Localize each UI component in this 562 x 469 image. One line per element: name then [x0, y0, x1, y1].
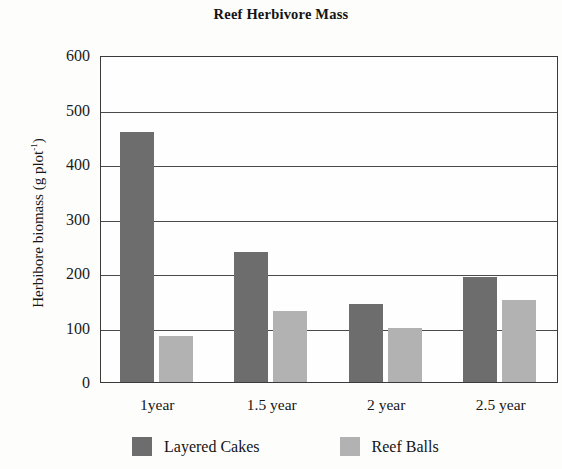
y-axis-tick-label: 600: [30, 48, 90, 64]
legend-item: Layered Cakes: [132, 437, 260, 456]
y-axis-title-base: Herbibore biomass (g plot: [30, 151, 46, 308]
legend-item: Reef Balls: [340, 437, 439, 456]
bar-layered-cakes-2-5-year: [463, 277, 497, 382]
y-axis-title-exponent: -1: [29, 143, 39, 151]
x-axis-tick-label: 2 year: [329, 396, 444, 414]
y-axis-title-close: ): [30, 138, 46, 143]
bar-reef-balls-2-year: [388, 328, 422, 382]
bar-reef-balls-1-5-year: [273, 311, 307, 382]
chart-title: Reef Herbivore Mass: [0, 6, 562, 23]
x-axis-tick-label: 1.5 year: [215, 396, 330, 414]
chart-page: Reef Herbivore Mass Herbibore biomass (g…: [0, 0, 562, 469]
gridline: [101, 221, 557, 222]
gridline: [101, 112, 557, 113]
chart-legend: Layered CakesReef Balls: [100, 437, 520, 456]
plot-area: [100, 56, 558, 383]
x-axis-tick-label: 1year: [100, 396, 215, 414]
bar-layered-cakes-2-year: [349, 304, 383, 382]
y-axis-tick-label: 0: [30, 375, 90, 391]
x-axis-tick-label: 2.5 year: [444, 396, 559, 414]
bar-layered-cakes-1year: [120, 132, 154, 382]
bar-reef-balls-2-5-year: [502, 300, 536, 382]
bar-layered-cakes-1-5-year: [234, 252, 268, 382]
gridline: [101, 166, 557, 167]
legend-swatch: [132, 437, 152, 456]
y-axis-title: Herbibore biomass (g plot-1): [29, 73, 47, 373]
bar-reef-balls-1year: [159, 336, 193, 382]
legend-label: Reef Balls: [372, 438, 439, 456]
legend-label: Layered Cakes: [164, 438, 260, 456]
legend-swatch: [340, 437, 360, 456]
